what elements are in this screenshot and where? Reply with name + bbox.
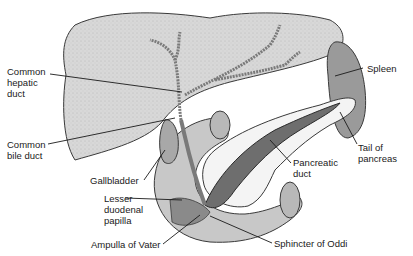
gallbladder-shape bbox=[160, 120, 179, 164]
duodenum-lumen-right bbox=[280, 182, 300, 218]
label-gallbladder: Gallbladder bbox=[90, 175, 139, 186]
anatomy-illustration bbox=[0, 0, 413, 256]
label-spleen: Spleen bbox=[367, 63, 397, 74]
anatomy-diagram: Common hepatic duct Common bile duct Gal… bbox=[0, 0, 413, 256]
label-tail-of-pancreas: Tail of pancreas bbox=[358, 142, 397, 164]
label-ampulla-of-vater: Ampulla of Vater bbox=[91, 239, 161, 250]
label-sphincter-of-oddi: Sphincter of Oddi bbox=[274, 238, 347, 249]
label-common-bile-duct: Common bile duct bbox=[7, 139, 46, 161]
label-pancreatic-duct: Pancreatic duct bbox=[293, 157, 338, 179]
label-common-hepatic-duct: Common hepatic duct bbox=[7, 66, 46, 99]
label-lesser-duodenal-papilla: Lesser duodenal papilla bbox=[104, 193, 143, 226]
duodenum-lumen-top bbox=[210, 111, 230, 139]
